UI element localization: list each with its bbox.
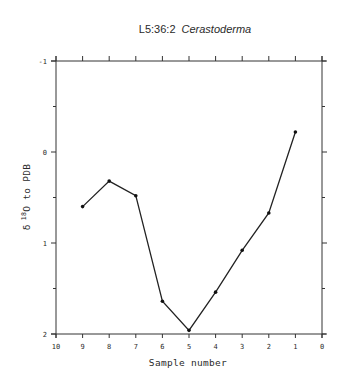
x-tick-label: 9	[80, 343, 84, 351]
x-tick-label: 5	[187, 343, 191, 351]
y-tick-label: 0	[43, 149, 47, 157]
data-point	[134, 194, 138, 198]
y-tick-label: -1	[39, 58, 47, 66]
y-axis-label: δ18O to PDB	[20, 164, 32, 231]
data-point	[240, 248, 244, 252]
y-axis-label-rest: O to PDB	[21, 164, 32, 212]
data-point	[107, 179, 111, 183]
data-point	[187, 329, 191, 333]
chart-title: L5:36:2Cerastoderma	[139, 23, 251, 35]
data-point	[214, 290, 218, 294]
x-axis-ticks: 109876543210	[52, 56, 324, 351]
y-axis-label-delta: δ	[21, 224, 32, 230]
x-tick-label: 3	[240, 343, 244, 351]
x-tick-label: 2	[267, 343, 271, 351]
y-axis-label-superscript: 18	[20, 212, 28, 220]
data-point	[161, 299, 165, 303]
x-axis-label: Sample number	[149, 357, 227, 368]
y-tick-label: 1	[43, 240, 47, 248]
x-tick-label: 6	[160, 343, 164, 351]
x-tick-label: 8	[107, 343, 111, 351]
chart-title-taxon: Cerastoderma	[182, 23, 252, 35]
data-point	[294, 130, 298, 134]
y-tick-label: 2	[43, 331, 47, 339]
line-chart: L5:36:2Cerastoderma 109876543210 -1012 S…	[0, 0, 350, 388]
chart-container: L5:36:2Cerastoderma 109876543210 -1012 S…	[0, 0, 350, 388]
x-tick-label: 4	[213, 343, 217, 351]
data-point	[267, 211, 271, 215]
data-point	[81, 205, 85, 209]
series-line	[83, 132, 296, 330]
data-series	[81, 130, 297, 332]
x-tick-label: 1	[293, 343, 297, 351]
x-tick-label: 0	[320, 343, 324, 351]
x-tick-label: 7	[134, 343, 138, 351]
chart-title-code: L5:36:2	[139, 23, 176, 35]
y-axis-ticks: -1012	[39, 58, 327, 339]
x-tick-label: 10	[52, 343, 60, 351]
